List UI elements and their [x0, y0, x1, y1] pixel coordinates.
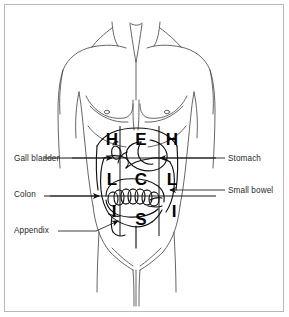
leader-appendix — [58, 221, 118, 231]
label-stomach: Stomach — [228, 154, 261, 163]
label-colon: Colon — [14, 190, 36, 199]
region-letter-left-hypochondrium: H — [164, 131, 180, 148]
region-letter-central-umbilical: C — [133, 171, 149, 188]
region-letter-suprapubic: S — [133, 211, 149, 228]
label-appendix: Appendix — [14, 226, 49, 235]
region-letter-left-lumbar: L — [164, 171, 180, 188]
region-letter-left-iliac-fossa: I — [166, 203, 182, 220]
torso-outline — [58, 22, 215, 306]
label-small-bowel: Small bowel — [228, 186, 273, 195]
region-letter-right-hypochondrium: H — [104, 131, 120, 148]
figure-root: H E H L C L I S I Gall bladder Colon App… — [0, 0, 289, 317]
label-gall-bladder: Gall bladder — [14, 154, 59, 163]
region-letter-right-iliac-fossa: I — [106, 203, 122, 220]
nine-region-grid-lines — [44, 126, 216, 236]
region-letter-epigastrium: E — [133, 131, 149, 148]
region-letter-right-lumbar: L — [104, 171, 120, 188]
